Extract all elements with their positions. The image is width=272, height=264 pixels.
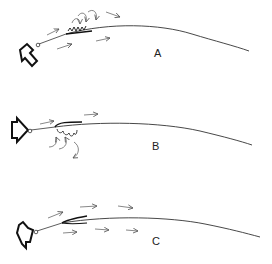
wind-arrow-icon <box>12 118 28 142</box>
wind-arrow-icon <box>20 44 37 66</box>
sail-curve <box>62 218 260 237</box>
turbulence <box>57 129 77 136</box>
wind-arrow-icon <box>17 222 33 248</box>
panel-a: A <box>20 10 249 66</box>
panel-label-c: C <box>152 235 160 247</box>
panel-label-b: B <box>152 140 159 152</box>
panel-label-a: A <box>154 47 162 59</box>
panel-c: C <box>17 206 260 248</box>
airflow-diagram: A B C <box>0 0 272 264</box>
panel-b: B <box>12 114 252 158</box>
